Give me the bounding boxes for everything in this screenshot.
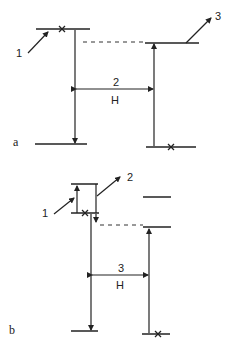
pump-arrow [54, 198, 74, 214]
panel-a: 3 1 2 H a [13, 10, 221, 150]
label-2: 2 [127, 171, 133, 183]
h-label: H [116, 279, 124, 291]
label-2: 2 [113, 76, 119, 88]
pump-arrow [28, 32, 48, 53]
panel-label-b: b [9, 323, 15, 337]
panel-b: 2 1 3 H b [9, 171, 171, 337]
label-1: 1 [16, 47, 22, 59]
energy-level-diagram: 3 1 2 H a 2 1 [0, 0, 229, 349]
emission-arrow [186, 18, 211, 43]
h-label: H [111, 94, 119, 106]
label-3: 3 [215, 10, 221, 22]
panel-label-a: a [13, 135, 19, 149]
label-1: 1 [42, 207, 48, 219]
label-3: 3 [118, 262, 124, 274]
emission-arrow [97, 177, 120, 196]
